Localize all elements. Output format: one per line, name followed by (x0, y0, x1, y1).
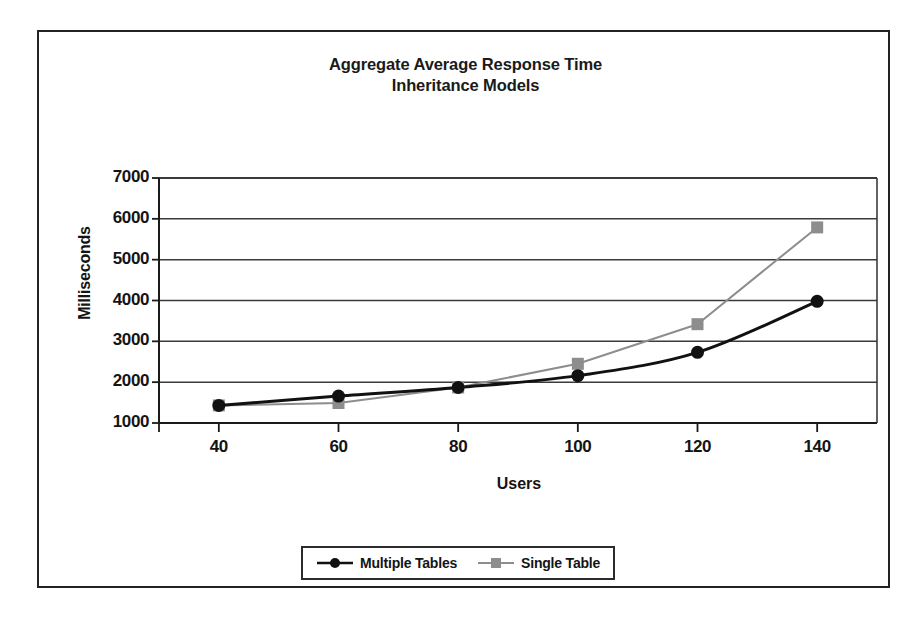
plot-area (39, 32, 892, 590)
y-tick-label: 3000 (75, 330, 149, 350)
data-point-marker (691, 346, 704, 359)
y-tick-label: 2000 (75, 371, 149, 391)
x-tick-label: 120 (668, 437, 728, 457)
x-tick-label: 40 (189, 437, 249, 457)
y-tick-label: 5000 (75, 249, 149, 269)
y-tick-label: 4000 (75, 290, 149, 310)
gridlines (159, 178, 877, 423)
y-tick-label: 6000 (75, 208, 149, 228)
legend-item-single-table: Single Table (477, 555, 600, 571)
chart-legend: Multiple Tables Single Table (301, 546, 615, 580)
data-point-marker (332, 390, 345, 403)
x-tick-label: 80 (428, 437, 488, 457)
chart-frame: Aggregate Average Response Time Inherita… (37, 30, 890, 588)
x-tick-label: 100 (548, 437, 608, 457)
data-point-marker (572, 358, 584, 370)
x-tick-label: 60 (309, 437, 369, 457)
x-tick-label: 140 (787, 437, 847, 457)
data-point-marker (811, 221, 823, 233)
data-point-marker (212, 399, 225, 412)
data-point-marker (811, 295, 824, 308)
legend-item-multiple-tables: Multiple Tables (316, 555, 457, 571)
data-point-marker (571, 369, 584, 382)
y-tick-label: 1000 (75, 412, 149, 432)
legend-swatch-single-table-icon (477, 556, 515, 570)
data-point-marker (692, 318, 704, 330)
y-axis-ticks (152, 178, 159, 423)
y-tick-label: 7000 (75, 167, 149, 187)
legend-label-single-table: Single Table (521, 555, 600, 571)
series-lines (219, 227, 817, 405)
x-axis-ticks (159, 423, 817, 432)
legend-label-multiple-tables: Multiple Tables (360, 555, 457, 571)
data-point-marker (452, 381, 465, 394)
legend-swatch-multiple-tables-icon (316, 556, 354, 570)
